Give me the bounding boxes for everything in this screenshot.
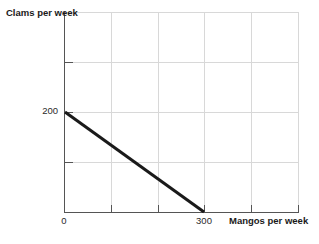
chart-figure: Clams per week Mangos per week 200 0 300 bbox=[0, 0, 319, 244]
horizontal-gridlines bbox=[65, 13, 299, 213]
y-axis-title: Clams per week bbox=[6, 8, 58, 19]
plot-area bbox=[0, 0, 319, 244]
x-tick-label-0: 0 bbox=[52, 216, 76, 227]
x-axis-ticks bbox=[112, 205, 299, 213]
x-axis-title: Mangos per week bbox=[229, 216, 308, 227]
x-tick-label-300: 300 bbox=[192, 216, 216, 227]
y-tick-label-200: 200 bbox=[24, 106, 58, 117]
